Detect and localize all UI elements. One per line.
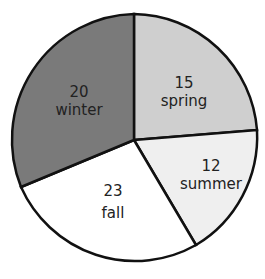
slice-summer-label: summer bbox=[180, 175, 243, 193]
slice-spring-value: 15 bbox=[174, 74, 193, 92]
slice-fall-value: 23 bbox=[103, 182, 122, 200]
pie-chart: 15 spring 12 summer 23 fall 20 winter bbox=[0, 0, 265, 279]
slice-winter-label: winter bbox=[55, 101, 103, 119]
slice-winter-value: 20 bbox=[69, 83, 88, 101]
slice-spring-label: spring bbox=[161, 92, 208, 110]
slice-spring bbox=[134, 14, 257, 140]
slice-fall-label: fall bbox=[102, 204, 125, 222]
slice-summer-value: 12 bbox=[201, 157, 220, 175]
